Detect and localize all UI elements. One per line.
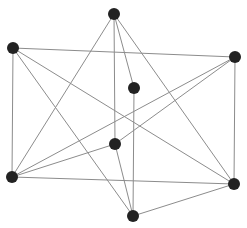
node-center-lower xyxy=(109,138,121,150)
edge-middle-bottom xyxy=(133,88,134,216)
nodes-group xyxy=(6,8,241,222)
node-right-top xyxy=(229,51,241,63)
node-left-bottom xyxy=(6,171,18,183)
edge-right-top-center-lower xyxy=(115,57,235,144)
edge-right-bottom-bottom xyxy=(133,184,234,216)
edge-top-right-bottom xyxy=(114,14,234,184)
edge-right-top-right-bottom xyxy=(234,57,235,184)
edges-group xyxy=(12,14,235,216)
edge-right-top-left-bottom xyxy=(12,57,235,177)
edge-top-center-lower xyxy=(114,14,115,144)
edge-left-top-left-bottom xyxy=(12,48,13,177)
edge-top-left-bottom xyxy=(12,14,114,177)
node-middle xyxy=(128,82,140,94)
node-right-bottom xyxy=(228,178,240,190)
node-bottom xyxy=(127,210,139,222)
edge-top-middle xyxy=(114,14,134,88)
edge-left-top-right-bottom xyxy=(13,48,234,184)
graph-diagram xyxy=(0,0,247,228)
node-top xyxy=(108,8,120,20)
node-left-top xyxy=(7,42,19,54)
